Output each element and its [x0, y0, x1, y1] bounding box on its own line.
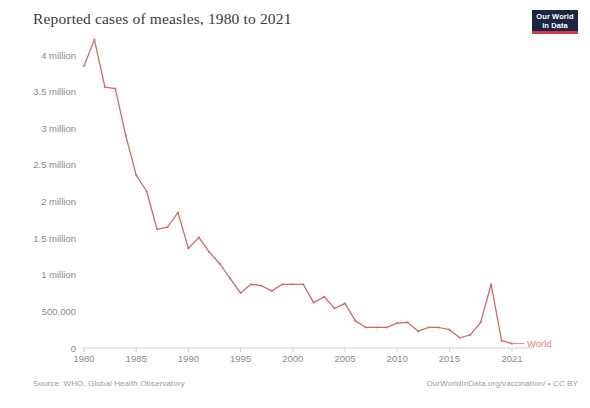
chart-card: Reported cases of measles, 1980 to 2021 …	[0, 0, 590, 408]
data-point[interactable]	[323, 296, 325, 298]
data-point[interactable]	[104, 86, 106, 88]
x-axis-tick-label: 1990	[178, 353, 199, 364]
data-point[interactable]	[229, 277, 231, 279]
data-point[interactable]	[208, 251, 210, 253]
data-point[interactable]	[417, 330, 419, 332]
data-point[interactable]	[459, 337, 461, 339]
data-point[interactable]	[114, 88, 116, 90]
data-point[interactable]	[333, 307, 335, 309]
data-point[interactable]	[260, 285, 262, 287]
data-point[interactable]	[83, 65, 85, 67]
x-axis-tick-label: 2015	[439, 353, 460, 364]
data-point[interactable]	[375, 326, 377, 328]
data-point[interactable]	[187, 247, 189, 249]
data-point[interactable]	[250, 283, 252, 285]
data-point[interactable]	[344, 302, 346, 304]
data-point[interactable]	[396, 322, 398, 324]
data-point[interactable]	[292, 283, 294, 285]
y-axis-tick-label: 3 million	[41, 123, 76, 134]
x-axis: 198019851990199520002005201020152021	[73, 348, 522, 364]
data-point[interactable]	[93, 39, 95, 41]
data-point[interactable]	[198, 236, 200, 238]
y-axis: 0500,0001 million1.5 million2 million2.5…	[33, 50, 534, 354]
data-point[interactable]	[448, 329, 450, 331]
data-point[interactable]	[386, 326, 388, 328]
data-point[interactable]	[166, 226, 168, 228]
y-axis-tick-label: 1.5 million	[33, 233, 76, 244]
x-axis-tick-label: 1995	[230, 353, 251, 364]
data-point[interactable]	[271, 290, 273, 292]
data-point[interactable]	[135, 174, 137, 176]
data-point[interactable]	[427, 326, 429, 328]
x-axis-tick-label: 2005	[334, 353, 355, 364]
y-axis-tick-label: 3.5 million	[33, 86, 76, 97]
x-axis-tick-label: 1980	[73, 353, 94, 364]
data-point[interactable]	[302, 283, 304, 285]
data-point[interactable]	[490, 283, 492, 285]
y-axis-tick-label: 4 million	[41, 50, 76, 61]
data-point[interactable]	[407, 321, 409, 323]
data-point[interactable]	[219, 263, 221, 265]
data-point[interactable]	[146, 190, 148, 192]
y-axis-tick-label: 1 million	[41, 269, 76, 280]
data-point[interactable]	[156, 228, 158, 230]
y-axis-tick-label: 2.5 million	[33, 159, 76, 170]
series-label-world[interactable]: World	[527, 338, 552, 349]
data-point[interactable]	[125, 134, 127, 136]
attribution-note[interactable]: OurWorldInData.org/vaccination/ • CC BY	[426, 379, 578, 388]
data-point[interactable]	[177, 211, 179, 213]
data-point[interactable]	[313, 301, 315, 303]
measles-line-chart[interactable]: 0500,0001 million1.5 million2 million2.5…	[0, 0, 590, 408]
data-point[interactable]	[365, 326, 367, 328]
data-point[interactable]	[438, 326, 440, 328]
x-axis-tick-label: 1985	[126, 353, 147, 364]
x-axis-tick-label: 2010	[387, 353, 408, 364]
data-series-group[interactable]	[83, 39, 513, 345]
x-axis-tick-label: 2021	[501, 353, 522, 364]
data-point[interactable]	[469, 334, 471, 336]
data-point[interactable]	[354, 320, 356, 322]
data-point[interactable]	[281, 283, 283, 285]
data-point[interactable]	[480, 321, 482, 323]
x-axis-tick-label: 2000	[282, 353, 303, 364]
series-line-world[interactable]	[84, 40, 512, 344]
series-end-label-group: World	[512, 338, 552, 349]
chart-plot-area[interactable]: 0500,0001 million1.5 million2 million2.5…	[0, 0, 590, 408]
y-axis-tick-label: 0	[71, 343, 76, 354]
y-axis-tick-label: 2 million	[41, 196, 76, 207]
data-point[interactable]	[500, 340, 502, 342]
data-point[interactable]	[239, 292, 241, 294]
source-note: Source: WHO, Global Health Observatory	[33, 379, 185, 388]
y-axis-tick-label: 500,000	[42, 306, 76, 317]
